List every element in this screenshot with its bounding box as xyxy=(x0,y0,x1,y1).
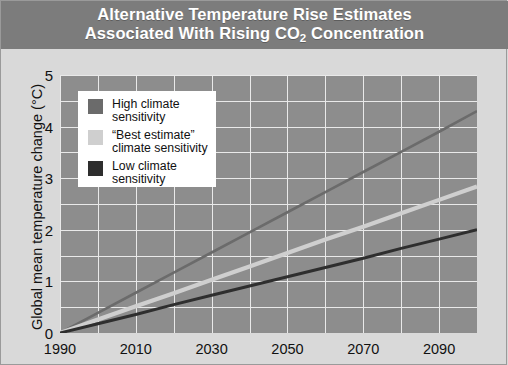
x-tick-label: 1990 xyxy=(30,342,90,357)
y-tick-label: 4 xyxy=(27,120,53,135)
legend-item: High climate sensitivity xyxy=(88,98,180,123)
series-line xyxy=(60,230,477,333)
chart-legend: High climate sensitivity“Best estimate” … xyxy=(78,91,216,187)
x-tick-label: 2070 xyxy=(333,342,393,357)
legend-swatch-low xyxy=(88,161,103,176)
x-tick-label: 2050 xyxy=(257,342,317,357)
page-title: Alternative Temperature Rise Estimates A… xyxy=(85,5,424,45)
title-line-2-post: Concentration xyxy=(306,24,424,42)
series-line xyxy=(60,186,477,333)
legend-item: “Best estimate” climate sensitivity xyxy=(88,129,208,154)
title-line-2-pre: Associated With Rising CO xyxy=(85,24,300,42)
legend-swatch-best xyxy=(88,130,103,145)
legend-label-best: “Best estimate” climate sensitivity xyxy=(112,129,208,154)
legend-item: Low climate sensitivity xyxy=(88,160,177,185)
y-tick-label: 0 xyxy=(27,326,53,341)
x-tick-label: 2090 xyxy=(409,342,469,357)
legend-swatch-high xyxy=(88,99,103,114)
x-tick-label: 2030 xyxy=(182,342,242,357)
legend-label-high: High climate sensitivity xyxy=(112,98,180,123)
title-line-1: Alternative Temperature Rise Estimates xyxy=(97,5,411,23)
y-axis-label: Global mean temperature change (°C) xyxy=(29,67,45,347)
title-subscript: 2 xyxy=(300,32,307,44)
y-tick-label: 5 xyxy=(27,68,53,83)
legend-label-low: Low climate sensitivity xyxy=(112,160,177,185)
y-tick-label: 1 xyxy=(27,274,53,289)
y-tick-label: 3 xyxy=(27,171,53,186)
x-tick-label: 2010 xyxy=(106,342,166,357)
chart-title-band: Alternative Temperature Rise Estimates A… xyxy=(1,1,508,49)
y-tick-label: 2 xyxy=(27,223,53,238)
